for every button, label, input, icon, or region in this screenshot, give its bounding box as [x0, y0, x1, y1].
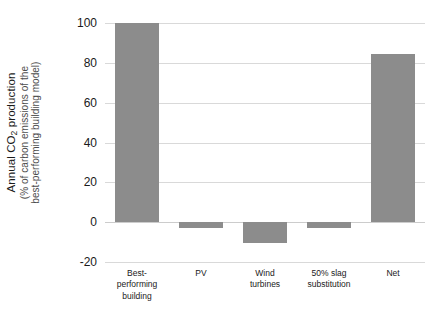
x-axis-ticks: Best- performing buildingPVWind turbines… — [105, 268, 425, 318]
y-tick-label--20: -20 — [53, 255, 97, 269]
gridline--20 — [105, 262, 425, 263]
y-axis-label-subscript: 2 — [8, 131, 18, 136]
x-tick-label-best-performing-building: Best- performing building — [105, 268, 169, 302]
x-tick-label-50-slag-substitution: 50% slag substitution — [297, 268, 361, 291]
y-tick-label-80: 80 — [53, 56, 97, 70]
bar-series — [105, 23, 425, 262]
y-axis-label-primary-text: Annual CO — [4, 135, 16, 192]
y-tick-label-100: 100 — [53, 16, 97, 30]
y-tick-label-60: 60 — [53, 96, 97, 110]
x-tick-label-net: Net — [361, 268, 425, 279]
x-tick-label-pv: PV — [169, 268, 233, 279]
y-axis-label-primary-rest: production — [4, 73, 16, 131]
plot-area — [105, 23, 425, 262]
y-axis-label: Annual CO2 production (% of carbon emiss… — [0, 0, 46, 265]
y-tick-label-0: 0 — [53, 215, 97, 229]
x-tick-label-wind-turbines: Wind turbines — [233, 268, 297, 291]
bar-slot — [361, 23, 425, 262]
bar-slot — [297, 23, 361, 262]
bar-best-performing-building[interactable] — [115, 23, 159, 222]
y-tick-label-20: 20 — [53, 175, 97, 189]
y-tick-label-40: 40 — [53, 136, 97, 150]
y-axis-label-primary: Annual CO2 production — [4, 61, 18, 203]
bar-slot — [233, 23, 297, 262]
co2-production-bar-chart: Annual CO2 production (% of carbon emiss… — [0, 0, 436, 320]
bar-pv[interactable] — [179, 222, 223, 228]
bar-slot — [169, 23, 233, 262]
bar-wind-turbines[interactable] — [243, 222, 287, 243]
bar-slot — [105, 23, 169, 262]
y-axis-label-secondary-line2: best-performing building model) — [30, 61, 42, 203]
y-axis-label-secondary-line1: (% of carbon emissions of the — [18, 61, 30, 203]
bar-50-slag-substitution[interactable] — [307, 222, 351, 228]
bar-net[interactable] — [371, 54, 415, 222]
